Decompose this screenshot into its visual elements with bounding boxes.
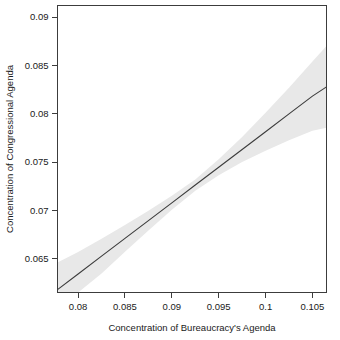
regression-plot: 0.080.0850.090.0950.10.105 0.0650.070.07… <box>0 0 340 340</box>
x-tick-label: 0.09 <box>163 301 182 312</box>
x-axis-title: Concentration of Bureaucracy's Agenda <box>108 322 276 333</box>
x-tick-label: 0.105 <box>301 301 325 312</box>
y-tick-label: 0.09 <box>30 11 49 22</box>
chart-canvas: 0.080.0850.090.0950.10.105 0.0650.070.07… <box>0 0 340 340</box>
x-tick-label: 0.085 <box>113 301 137 312</box>
y-tick-label: 0.08 <box>30 108 49 119</box>
plot-background <box>0 0 340 340</box>
x-tick-label: 0.1 <box>259 301 272 312</box>
x-tick-label: 0.08 <box>69 301 88 312</box>
y-tick-label: 0.075 <box>25 156 49 167</box>
y-tick-label: 0.085 <box>25 60 49 71</box>
x-tick-label: 0.095 <box>207 301 231 312</box>
y-axis-title: Concentration of Congressional Agenda <box>4 64 15 233</box>
y-tick-label: 0.07 <box>30 205 49 216</box>
y-tick-label: 0.065 <box>25 253 49 264</box>
